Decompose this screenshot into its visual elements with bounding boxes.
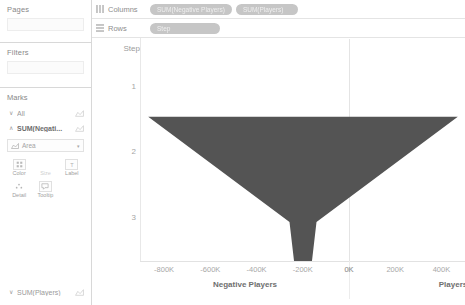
area-mark-icon bbox=[75, 124, 84, 133]
rows-shelf-label: Rows bbox=[108, 24, 150, 33]
filters-shelf[interactable]: Filters bbox=[0, 43, 91, 88]
x-axis-title-players: Players bbox=[439, 280, 465, 289]
x-axis-line bbox=[140, 261, 465, 262]
marks-title: Marks bbox=[7, 93, 84, 102]
mark-type-label: Area bbox=[22, 142, 74, 149]
viz-pane[interactable]: Step 1 2 3 bbox=[92, 38, 465, 261]
chevron-down-icon[interactable]: ∨ bbox=[7, 110, 14, 116]
rows-pills: Step bbox=[150, 23, 220, 34]
columns-grid-icon bbox=[96, 5, 104, 13]
chevron-down-icon[interactable]: ∨ bbox=[7, 289, 14, 295]
rows-grid-icon bbox=[96, 24, 104, 32]
x-tick-pos-1: 200K bbox=[386, 265, 404, 274]
marks-all-label: All bbox=[17, 110, 72, 117]
marks-card2-label: SUM(Players) bbox=[17, 289, 72, 296]
detail-button[interactable]: Detail bbox=[7, 179, 31, 200]
detail-icon bbox=[13, 181, 26, 192]
x-axis: -800K-600K-400K-200K0K0K200K400K600K800K… bbox=[92, 261, 465, 305]
size-button-label: Size bbox=[40, 171, 51, 177]
x-tick-neg-3: -200K bbox=[293, 265, 313, 274]
detail-button-label: Detail bbox=[12, 193, 26, 199]
shelf-area: Columns SUM(Negative Players) SUM(Player… bbox=[92, 0, 465, 38]
tooltip-button-label: Tooltip bbox=[38, 193, 54, 199]
columns-shelf[interactable]: Columns SUM(Negative Players) SUM(Player… bbox=[92, 0, 465, 19]
tooltip-icon bbox=[39, 181, 52, 192]
marks-row-players[interactable]: ∨ SUM(Players) bbox=[7, 286, 84, 298]
columns-shelf-label: Columns bbox=[108, 5, 150, 14]
color-button[interactable]: Color bbox=[7, 157, 31, 178]
mark-type-selector[interactable]: Area ▾ bbox=[7, 139, 84, 152]
marks-buttons-row1: Color Size T Label bbox=[7, 157, 84, 178]
area-chart-icon bbox=[11, 142, 19, 150]
y-tick-1: 1 bbox=[92, 82, 136, 91]
chevron-up-icon[interactable]: ∧ bbox=[7, 125, 14, 131]
color-button-label: Color bbox=[13, 171, 26, 177]
marks-card-players: ∨ SUM(Players) bbox=[7, 282, 84, 301]
marks-row-negative-players[interactable]: ∧ SUM(Negati... bbox=[7, 122, 84, 134]
x-axis-title-negative-players: Negative Players bbox=[213, 280, 277, 289]
color-palette-icon bbox=[13, 159, 26, 170]
rows-shelf[interactable]: Rows Step bbox=[92, 19, 465, 38]
y-axis-title: Step bbox=[92, 44, 140, 53]
x-tick-neg-2: -400K bbox=[247, 265, 267, 274]
marks-buttons-spacer bbox=[60, 179, 84, 200]
svg-text:T: T bbox=[70, 162, 74, 168]
plot-canvas bbox=[141, 39, 465, 261]
pages-title: Pages bbox=[7, 5, 84, 14]
y-tick-2: 2 bbox=[92, 147, 136, 156]
pill-step[interactable]: Step bbox=[150, 23, 220, 34]
filters-title: Filters bbox=[7, 48, 84, 57]
label-button-label: Label bbox=[65, 171, 78, 177]
size-icon bbox=[39, 159, 52, 170]
label-icon: T bbox=[65, 159, 78, 170]
y-tick-3: 3 bbox=[92, 213, 136, 222]
main-area: Columns SUM(Negative Players) SUM(Player… bbox=[92, 0, 465, 305]
left-panel: Pages Filters Marks ∨ All ∧ SUM(Negati..… bbox=[0, 0, 92, 305]
pill-sum-negative-players[interactable]: SUM(Negative Players) bbox=[150, 4, 232, 15]
pages-shelf[interactable]: Pages bbox=[0, 0, 91, 43]
x-tick-pos-2: 400K bbox=[433, 265, 451, 274]
marks-buttons-row2: Detail Tooltip bbox=[7, 179, 84, 200]
x-tick-neg-0: -800K bbox=[154, 265, 174, 274]
tooltip-button[interactable]: Tooltip bbox=[33, 179, 57, 200]
x-tick-neg-1: -600K bbox=[200, 265, 220, 274]
filters-drop-zone[interactable] bbox=[7, 61, 84, 74]
size-button[interactable]: Size bbox=[33, 157, 57, 178]
marks-card: Marks ∨ All ∧ SUM(Negati... bbox=[0, 88, 91, 305]
pill-sum-players[interactable]: SUM(Players) bbox=[236, 4, 298, 15]
tableau-worksheet: Pages Filters Marks ∨ All ∧ SUM(Negati..… bbox=[0, 0, 465, 305]
area-mark-icon bbox=[75, 288, 84, 297]
marks-row-all[interactable]: ∨ All bbox=[7, 107, 84, 119]
columns-pills: SUM(Negative Players) SUM(Players) bbox=[150, 4, 298, 15]
label-button[interactable]: T Label bbox=[60, 157, 84, 178]
x-tick-pos-0: 0K bbox=[344, 265, 353, 274]
chevron-down-icon[interactable]: ▾ bbox=[77, 143, 80, 149]
pages-drop-zone[interactable] bbox=[7, 18, 84, 31]
marks-card1-label: SUM(Negati... bbox=[17, 125, 72, 132]
area-mark-icon bbox=[75, 109, 84, 118]
